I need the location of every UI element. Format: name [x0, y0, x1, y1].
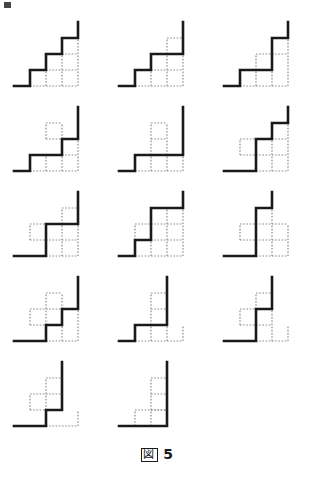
panel-r2c3-svg — [210, 97, 315, 182]
page-corner-mark — [4, 2, 11, 8]
panel-r1c1-svg — [0, 12, 105, 97]
panel-r4c2-solid-path — [119, 277, 167, 341]
panel-r3c3 — [210, 182, 315, 267]
panel-r5c2-solid-path — [119, 362, 167, 426]
panel-r1c2 — [105, 12, 210, 97]
panel-r3c1 — [0, 182, 105, 267]
panel-r3c1-solid-path — [14, 192, 78, 256]
panel-r5c2-svg — [105, 352, 210, 437]
figure-caption-label: 図 — [141, 448, 158, 462]
panel-r1c1 — [0, 12, 105, 97]
panel-r5c1-svg — [0, 352, 105, 437]
panel-r4c2-svg — [105, 267, 210, 352]
panel-r1c2-svg — [105, 12, 210, 97]
panel-r2c1-svg — [0, 97, 105, 182]
panel-row-5 — [0, 352, 316, 437]
panel-r5c1 — [0, 352, 105, 437]
panel-r2c1 — [0, 97, 105, 182]
panel-r2c3-solid-path — [224, 107, 288, 171]
panel-r3c1-svg — [0, 182, 105, 267]
panel-row-2 — [0, 97, 316, 182]
panel-r2c2-svg — [105, 97, 210, 182]
panel-grid — [0, 12, 316, 437]
panel-r4c3-svg — [210, 267, 315, 352]
panel-row-4 — [0, 267, 316, 352]
panel-r2c2 — [105, 97, 210, 182]
panel-r4c2 — [105, 267, 210, 352]
panel-r3c2 — [105, 182, 210, 267]
panel-r2c3 — [210, 97, 315, 182]
panel-r4c3 — [210, 267, 315, 352]
panel-r5c2 — [105, 352, 210, 437]
panel-r3c3-svg — [210, 182, 315, 267]
figure-caption: 図5 — [0, 446, 316, 462]
figure-root: 図5 — [0, 0, 316, 484]
panel-r4c1-svg — [0, 267, 105, 352]
panel-r4c1 — [0, 267, 105, 352]
panel-row-1 — [0, 12, 316, 97]
panel-r1c3-svg — [210, 12, 315, 97]
panel-r1c3 — [210, 12, 315, 97]
panel-r3c2-svg — [105, 182, 210, 267]
figure-caption-number: 5 — [163, 446, 175, 462]
panel-row-3 — [0, 182, 316, 267]
